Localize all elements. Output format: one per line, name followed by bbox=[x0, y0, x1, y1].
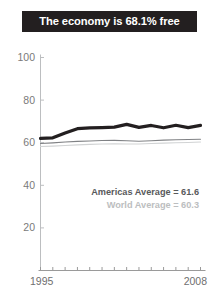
axis-group bbox=[39, 55, 206, 271]
x-axis-tick-labels: 1995 2008 bbox=[0, 276, 217, 292]
y-tick-label: 40 bbox=[7, 180, 35, 191]
series-line-world-average bbox=[41, 142, 201, 146]
y-tick-label: 100 bbox=[7, 52, 35, 63]
y-axis-tick-labels: 20406080100 bbox=[2, 0, 35, 303]
x-axis-start-label: 1995 bbox=[30, 276, 53, 287]
data-series-group bbox=[41, 124, 201, 146]
legend-world-average: World Average = 60.3 bbox=[91, 199, 199, 212]
chart-legend: Americas Average = 61.6 World Average = … bbox=[91, 186, 199, 212]
x-axis-end-label: 2008 bbox=[184, 276, 207, 287]
series-line-country-score bbox=[41, 124, 201, 138]
tick-marks bbox=[41, 58, 201, 271]
economic-freedom-chart: The economy is 68.1% free 20406080100 19… bbox=[0, 0, 217, 303]
y-tick-label: 60 bbox=[7, 137, 35, 148]
legend-americas-average: Americas Average = 61.6 bbox=[91, 186, 199, 199]
y-tick-label: 80 bbox=[7, 95, 35, 106]
y-tick-label: 20 bbox=[7, 222, 35, 233]
